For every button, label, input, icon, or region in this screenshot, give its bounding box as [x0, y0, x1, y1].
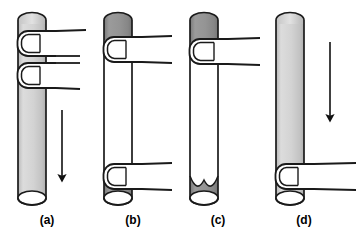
finger-lower-d [276, 163, 357, 190]
finger-upper-b-bottom-edge [142, 62, 172, 63]
finger-upper-c [190, 38, 261, 65]
finger-lower-b-top-edge [142, 163, 172, 164]
finger-upper-c-top-edge [228, 38, 260, 39]
panel-b: (b) [104, 13, 173, 228]
panel-c-caption: (c) [211, 213, 226, 227]
figure-container: (a) [0, 0, 362, 230]
finger-upper-a-top-edge [56, 30, 86, 31]
finger-lower-d-top-edge [314, 163, 356, 164]
panel-c: (c) [190, 13, 261, 228]
panel-a-caption: (a) [40, 213, 55, 227]
finger-lower-a-bottom-edge [56, 88, 80, 89]
finger-upper-c-bottom-edge [228, 64, 260, 65]
panel-d-caption: (d) [296, 213, 311, 227]
finger-upper-b [104, 36, 173, 63]
tube-c-top-plug [190, 13, 218, 43]
finger-upper-a [18, 30, 87, 56]
finger-lower-d-bottom-edge [314, 189, 356, 190]
panel-d: (d) [276, 13, 357, 228]
finger-lower-b [104, 163, 173, 190]
tube-b-top-plug [104, 13, 132, 41]
finger-lower-a [18, 63, 81, 89]
panel-b-caption: (b) [125, 213, 140, 227]
finger-lower-b-bottom-edge [142, 189, 172, 190]
panel-a: (a) [18, 13, 87, 228]
finger-upper-b-top-edge [142, 36, 172, 37]
figure-canvas: (a) [0, 0, 362, 230]
